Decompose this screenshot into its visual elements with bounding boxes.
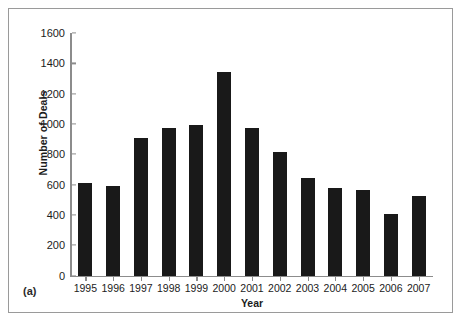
x-axis-tick-labels: 1995199619971998199920002001200220032004… [72,282,433,298]
x-axis-tick-mark [196,277,197,281]
y-axis-tick-mark [72,214,76,215]
y-axis-tick-label: 800 [31,148,65,160]
bar[interactable] [301,178,315,276]
bar-slot [127,33,155,276]
y-axis-tick-label: 1600 [31,27,65,39]
bar-chart: Number of Deals 020040060080010001200140… [9,9,454,314]
figure-panel: Number of Deals 020040060080010001200140… [8,8,453,313]
bar-slot [210,33,238,276]
x-axis-tick-mark [141,277,142,281]
bar-slot [155,33,183,276]
y-axis-tick-mark [72,154,76,155]
y-axis-tick-label: 600 [31,179,65,191]
x-axis-title: Year [72,297,433,309]
bar[interactable] [78,183,92,275]
y-axis-tick-label: 0 [31,270,65,282]
x-axis-tick-mark [419,277,420,281]
y-axis-tick-mark [72,245,76,246]
y-axis-tick-label: 200 [31,239,65,251]
bar-slot [266,33,294,276]
y-axis-tick-mark [72,275,76,276]
bar-slot [405,33,433,276]
bar[interactable] [356,190,370,276]
x-axis-tick-mark [252,277,253,281]
bar[interactable] [134,138,148,275]
x-axis-tick-mark [224,277,225,281]
y-axis-tick-label: 1400 [31,57,65,69]
y-axis-tick-label: 1000 [31,118,65,130]
bar[interactable] [273,152,287,276]
bar-slot [183,33,211,276]
y-axis-tick-labels: 02004006008001000120014001600 [25,9,65,314]
x-axis-tick-mark [113,277,114,281]
y-axis-tick-label: 400 [31,209,65,221]
y-axis-tick-label: 1200 [31,88,65,100]
plot-area [72,33,433,276]
bar[interactable] [162,128,176,276]
y-axis-tick-mark [72,93,76,94]
bar[interactable] [328,188,342,275]
x-axis-tick-mark [335,277,336,281]
x-axis-tick-mark [169,277,170,281]
x-axis-tick-mark [391,277,392,281]
bar-slot [321,33,349,276]
bar-slot [377,33,405,276]
bar[interactable] [412,196,426,276]
bar-slot [349,33,377,276]
bar[interactable] [217,72,231,275]
y-axis-tick-mark [72,184,76,185]
y-axis-tick-mark [72,32,76,33]
y-axis-tick-mark [72,123,76,124]
y-axis-tick-mark [72,63,76,64]
x-axis-tick-mark [363,277,364,281]
bar[interactable] [189,125,203,275]
panel-caption: (a) [23,285,36,297]
x-axis-tick-mark [308,277,309,281]
x-axis-tick-mark [85,277,86,281]
x-axis-tick-mark [280,277,281,281]
bar-slot [238,33,266,276]
bar-slot [72,33,100,276]
x-axis-tick-label: 2007 [399,282,439,294]
bar[interactable] [106,186,120,275]
bar[interactable] [384,214,398,275]
bar[interactable] [245,128,259,275]
bar-slot [99,33,127,276]
bar-slot [294,33,322,276]
